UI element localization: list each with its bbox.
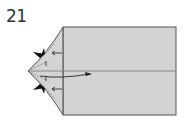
- origami-diagram: [0, 0, 189, 123]
